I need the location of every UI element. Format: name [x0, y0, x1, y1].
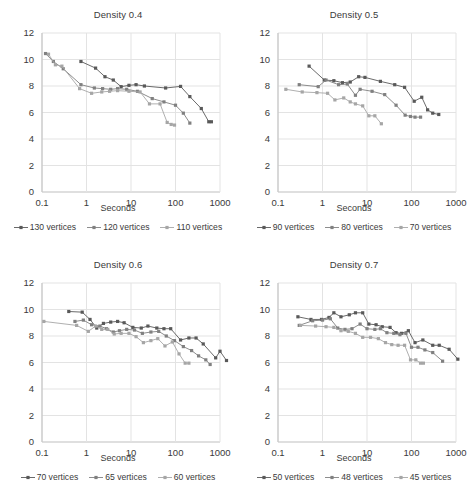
- series-marker: [81, 311, 84, 314]
- series-marker: [209, 363, 212, 366]
- series-marker: [332, 326, 335, 329]
- series-marker: [333, 98, 336, 101]
- legend-item[interactable]: 70 vertices: [394, 223, 452, 232]
- series-marker: [163, 344, 166, 347]
- series-marker: [200, 107, 203, 110]
- series-marker: [377, 337, 380, 340]
- legend-label: 70 vertices: [410, 223, 452, 232]
- legend-marker-icon: [325, 473, 339, 482]
- series-marker: [423, 348, 426, 351]
- y-tick-label: 6: [29, 107, 34, 118]
- legend-item[interactable]: 130 vertices: [14, 223, 76, 232]
- legend-item[interactable]: 60 vertices: [158, 473, 216, 482]
- series-marker: [67, 310, 70, 313]
- y-tick-label: 4: [29, 383, 34, 394]
- series-marker: [202, 342, 205, 345]
- series-marker: [174, 104, 177, 107]
- legend-label: 48 vertices: [341, 473, 383, 482]
- legend-marker-icon: [21, 473, 35, 482]
- y-tick-label: 12: [23, 27, 34, 38]
- legend-item[interactable]: 120 vertices: [87, 223, 149, 232]
- plot-area: 0246810120.11101001000: [236, 0, 472, 236]
- legend-item[interactable]: 80 vertices: [325, 223, 383, 232]
- legend-item[interactable]: 65 vertices: [89, 473, 147, 482]
- series-marker: [133, 328, 136, 331]
- series-marker: [94, 67, 97, 70]
- series-marker: [87, 330, 90, 333]
- series-marker: [127, 90, 130, 93]
- legend: 130 vertices120 vertices110 vertices: [0, 223, 236, 232]
- legend: 90 vertices80 vertices70 vertices: [236, 223, 472, 232]
- legend-marker-icon: [257, 223, 271, 232]
- series-marker: [93, 86, 96, 89]
- series-marker: [187, 362, 190, 365]
- legend-item[interactable]: 90 vertices: [257, 223, 315, 232]
- series-marker: [409, 358, 412, 361]
- series-marker: [157, 330, 160, 333]
- legend-item[interactable]: 50 vertices: [257, 473, 315, 482]
- legend-label: 70 vertices: [37, 473, 79, 482]
- series-marker: [359, 322, 362, 325]
- series-marker: [177, 352, 180, 355]
- series-marker: [380, 122, 383, 125]
- series-marker: [342, 96, 345, 99]
- legend-item[interactable]: 45 vertices: [394, 473, 452, 482]
- series-marker: [367, 322, 370, 325]
- y-tick-label: 10: [23, 304, 34, 315]
- series-marker: [379, 80, 382, 83]
- series-marker: [101, 87, 104, 90]
- series-marker: [120, 85, 123, 88]
- series-marker: [357, 75, 360, 78]
- series-marker: [409, 115, 412, 118]
- series-marker: [379, 327, 382, 330]
- legend-item[interactable]: 48 vertices: [325, 473, 383, 482]
- series-marker: [184, 362, 187, 365]
- series-marker: [225, 359, 228, 362]
- series-marker: [404, 332, 407, 335]
- legend-marker-icon: [394, 223, 408, 232]
- y-tick-label: 0: [265, 186, 270, 197]
- legend-marker-icon: [158, 473, 172, 482]
- series-marker: [413, 100, 416, 103]
- series-marker: [106, 328, 109, 331]
- series-marker: [326, 92, 329, 95]
- series-marker: [438, 344, 441, 347]
- series-marker: [108, 90, 111, 93]
- series-marker: [388, 326, 391, 329]
- legend-item[interactable]: 70 vertices: [21, 473, 79, 482]
- y-tick-label: 6: [265, 357, 270, 368]
- y-tick-label: 10: [23, 54, 34, 65]
- series-marker: [134, 83, 137, 86]
- series-marker: [361, 311, 364, 314]
- series-marker: [187, 336, 190, 339]
- legend-item[interactable]: 110 vertices: [160, 223, 222, 232]
- legend: 70 vertices65 vertices60 vertices: [0, 473, 236, 482]
- series-line: [44, 321, 189, 363]
- series-marker: [354, 332, 357, 335]
- series-marker: [419, 362, 422, 365]
- series-marker: [138, 90, 141, 93]
- series-marker: [317, 85, 320, 88]
- y-tick-label: 4: [265, 133, 270, 144]
- y-tick-label: 10: [259, 304, 270, 315]
- series-marker: [158, 102, 161, 105]
- series-marker: [413, 116, 416, 119]
- series-marker: [116, 89, 119, 92]
- x-axis-label: Seconds: [0, 203, 236, 213]
- chart-panel-density-0-5: Density 0.5 0246810120.11101001000 Secon…: [236, 0, 472, 250]
- series-marker: [422, 362, 425, 365]
- legend-label: 60 vertices: [174, 473, 216, 482]
- plot-svg: 0246810120.11101001000: [0, 0, 236, 236]
- x-axis-label: Seconds: [236, 453, 472, 463]
- series-marker: [44, 52, 47, 55]
- series-marker: [116, 320, 119, 323]
- series-marker: [166, 121, 169, 124]
- series-marker: [179, 85, 182, 88]
- series-marker: [390, 343, 393, 346]
- series-marker: [416, 346, 419, 349]
- series-marker: [354, 102, 357, 105]
- series-marker: [204, 358, 207, 361]
- series-marker: [190, 349, 193, 352]
- y-tick-label: 0: [265, 436, 270, 447]
- series-marker: [169, 327, 172, 330]
